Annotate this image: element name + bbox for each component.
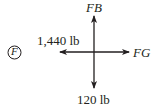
force-label-left: 1,440 lb	[37, 34, 80, 47]
joint-label: F	[11, 46, 18, 57]
force-label-right: FG	[133, 46, 150, 59]
force-label-down: 120 lb	[77, 93, 110, 106]
force-label-up: FB	[86, 1, 102, 14]
